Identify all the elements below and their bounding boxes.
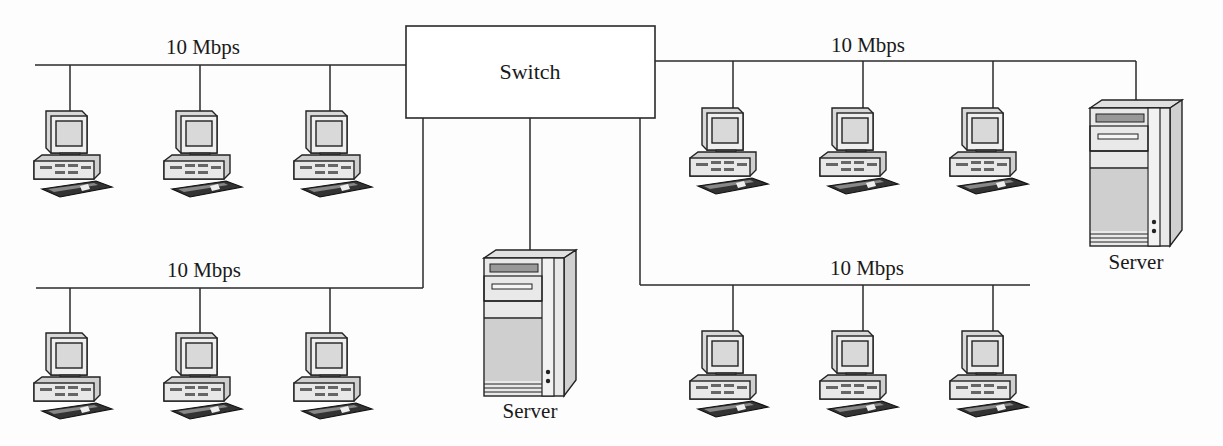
workstation-icon xyxy=(690,331,768,417)
workstation-icon xyxy=(950,331,1028,417)
workstation-icon xyxy=(820,108,898,194)
workstation-icon xyxy=(34,333,112,419)
speed-label-top-left: 10 Mbps xyxy=(166,35,240,60)
server-icon xyxy=(1090,100,1182,246)
segment-top-right-bus xyxy=(655,61,1136,110)
server-label-center: Server xyxy=(503,399,558,424)
workstation-icon xyxy=(820,331,898,417)
workstation-icon xyxy=(294,333,372,419)
server-label-right: Server xyxy=(1109,250,1164,275)
speed-label-top-right: 10 Mbps xyxy=(831,33,905,58)
speed-label-bottom-right: 10 Mbps xyxy=(830,256,904,281)
network-diagram: Switch 10 Mbps 10 Mbps 10 Mbps 10 Mbps S… xyxy=(0,0,1223,446)
server-icon xyxy=(484,250,576,396)
workstation-icon xyxy=(294,111,372,197)
workstation-icon xyxy=(690,108,768,194)
workstation-icon xyxy=(34,111,112,197)
segment-bottom-left-bus xyxy=(36,118,423,335)
segment-top-left-bus xyxy=(35,65,406,113)
switch-label: Switch xyxy=(499,59,560,85)
workstation-icon xyxy=(164,111,242,197)
workstation-icon xyxy=(950,108,1028,194)
speed-label-bottom-left: 10 Mbps xyxy=(167,258,241,283)
workstation-icon xyxy=(164,333,242,419)
